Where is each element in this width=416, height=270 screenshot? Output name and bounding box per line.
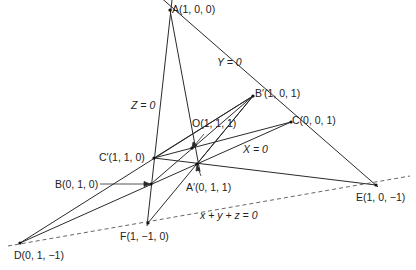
label-point-f: F(1, −1, 0) — [120, 231, 169, 242]
label-point-bprime: B′(1, 0, 1) — [255, 88, 300, 99]
line-bp-b — [151, 96, 253, 184]
projective-diagram — [0, 0, 416, 270]
label-point-a: A(1, 0, 0) — [172, 4, 215, 15]
label-line-x0: X = 0 — [243, 144, 268, 155]
line-a-ap — [170, 10, 200, 172]
label-point-c: C(0, 0, 1) — [292, 115, 336, 126]
label-point-b: B(0, 1, 0) — [55, 179, 98, 190]
label-point-aprime: A′(0, 1, 1) — [186, 182, 231, 193]
label-point-o: O(1, 1, 1) — [192, 118, 236, 129]
label-line-xyz0: x + y + z = 0 — [200, 210, 258, 221]
label-point-cprime: C′(1, 1, 0) — [99, 152, 145, 163]
label-line-z0: Z = 0 — [131, 100, 155, 111]
label-point-e: E(1, 0, −1) — [356, 192, 405, 203]
label-line-y0: Y = 0 — [217, 57, 242, 68]
line-z0 — [147, 0, 172, 226]
label-point-d: D(0, 1, −1) — [14, 250, 64, 261]
